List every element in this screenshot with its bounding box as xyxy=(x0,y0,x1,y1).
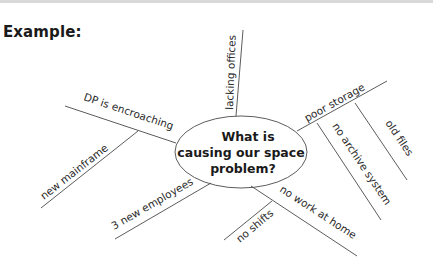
center-line-3: problem? xyxy=(210,161,276,176)
branch-label: DP is encroaching xyxy=(82,91,175,132)
branch-label: no shifts xyxy=(234,207,276,245)
branch-label: poor storage xyxy=(302,81,366,124)
branch-no-shifts: no shifts xyxy=(224,201,275,245)
branch-label: lacking offices xyxy=(223,35,238,110)
fishbone-mind-map: What is causing our space problem? lacki… xyxy=(0,0,433,266)
branch-line xyxy=(41,131,138,208)
branch-3-new-employees: 3 new employees xyxy=(109,175,211,239)
branch-dp-encroaching: DP is encroaching xyxy=(65,91,176,143)
branch-label: new mainframe xyxy=(38,141,110,201)
center-line-2: causing our space xyxy=(177,145,304,160)
branch-no-archive-system: no archive system xyxy=(317,120,394,220)
branch-label: 3 new employees xyxy=(109,175,195,232)
branch-new-mainframe: new mainframe xyxy=(38,131,138,208)
central-question-node: What is causing our space problem? xyxy=(175,116,307,188)
branch-lacking-offices: lacking offices xyxy=(223,30,243,116)
branch-label: no archive system xyxy=(330,120,394,207)
center-line-1: What is xyxy=(221,129,274,144)
